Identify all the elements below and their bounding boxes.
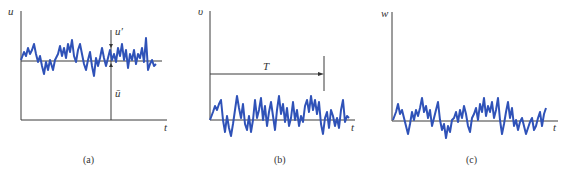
caption-b: (b) (274, 154, 286, 166)
arrow-down-icon (109, 44, 113, 48)
arrow-right-icon (318, 72, 324, 76)
x-label-c: t (553, 121, 557, 133)
mean-label: ū (115, 87, 121, 99)
x-label-a: t (164, 121, 168, 133)
panel-a: u t u′ ū (a) (8, 5, 168, 166)
turbulence-figure: u t u′ ū (a) υ t T (b) w t (c) (0, 0, 573, 175)
caption-c: (c) (466, 154, 477, 166)
caption-a: (a) (83, 154, 94, 166)
signal-u (21, 38, 156, 76)
signal-w (393, 98, 546, 138)
panel-c: w t (c) (381, 7, 558, 166)
y-label-a: u (8, 5, 14, 17)
fluctuation-label: u′ (115, 25, 124, 37)
y-label-b: υ (198, 5, 203, 17)
x-label-b: t (351, 121, 355, 133)
panel-b: υ t T (b) (198, 5, 355, 166)
y-label-c: w (381, 7, 389, 19)
arrow-up-icon (109, 63, 113, 67)
period-label: T (263, 60, 270, 72)
signal-v (210, 96, 349, 136)
